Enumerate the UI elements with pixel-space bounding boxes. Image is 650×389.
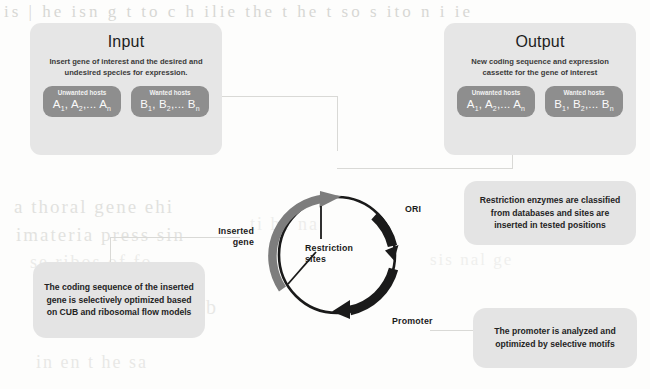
input-unwanted-hosts-label: Unwanted hosts [49, 90, 115, 97]
input-panel-subtitle: Insert gene of interest and the desired … [43, 56, 209, 78]
output-panel-subtitle: New coding sequence and expression casse… [457, 56, 623, 78]
output-panel: Output New coding sequence and expressio… [444, 23, 636, 155]
callout-promoter-optimization-lead: The promoter [494, 326, 549, 336]
output-panel-title: Output [454, 33, 626, 51]
connector-input-down [337, 96, 338, 151]
callout-coding-sequence-lead: The coding sequence [44, 282, 132, 292]
input-host-group: Unwanted hosts A1, A2,... An Wanted host… [40, 86, 212, 117]
input-unwanted-hosts-values: A1, A2,... An [49, 98, 115, 112]
output-wanted-hosts-values: B1, B2,... Bn [551, 98, 617, 112]
plasmid-promoter-arrowhead [332, 300, 350, 319]
plasmid-label-promoter: Promoter [392, 316, 433, 326]
input-unwanted-hosts-box: Unwanted hosts A1, A2,... An [43, 86, 121, 117]
input-panel: Input Insert gene of interest and the de… [30, 23, 222, 155]
callout-coding-sequence: The coding sequence of the inserted gene… [33, 262, 205, 338]
plasmid-ori-segment [375, 216, 393, 246]
callout-restriction-enzymes-lead: Restriction enzymes [480, 195, 564, 205]
callout-promoter-optimization-text: The promoter is analyzed and optimized b… [482, 325, 628, 351]
input-wanted-hosts-box: Wanted hosts B1, B2,... Bn [131, 86, 209, 117]
callout-promoter-optimization: The promoter is analyzed and optimized b… [473, 308, 637, 368]
input-wanted-hosts-values: B1, B2,... Bn [137, 98, 203, 112]
output-unwanted-hosts-values: A1, A2,... An [463, 98, 529, 112]
output-host-group: Unwanted hosts A1, A2,... An Wanted host… [454, 86, 626, 117]
output-unwanted-hosts-box: Unwanted hosts A1, A2,... An [457, 86, 535, 117]
callout-coding-sequence-text: The coding sequence of the inserted gene… [42, 281, 196, 320]
bleed-through-text: sis nal ge [430, 250, 513, 270]
plasmid-promoter-segment [350, 269, 394, 311]
bleed-through-text: a thoral gene ehi [14, 196, 174, 218]
input-panel-title: Input [40, 33, 212, 51]
bleed-through-text: is | he isn g t to c h ilie the t he t s… [4, 2, 473, 22]
plasmid-ori-arrowhead [385, 245, 399, 261]
callout-restriction-enzymes: Restriction enzymes are classified from … [464, 181, 636, 245]
bleed-through-text: imateria press sin [16, 224, 185, 246]
callout-restriction-enzymes-text: Restriction enzymes are classified from … [473, 194, 627, 233]
bleed-through-text: in en t he sa [36, 352, 148, 373]
plasmid-label-ori: ORI [405, 204, 421, 214]
output-unwanted-hosts-label: Unwanted hosts [463, 90, 529, 97]
connector-top-bracket [213, 96, 338, 97]
output-wanted-hosts-box: Wanted hosts B1, B2,... Bn [545, 86, 623, 117]
plasmid-inserted-gene-arrowhead [320, 191, 342, 208]
plasmid-label-inserted-gene: Inserted gene [206, 226, 254, 248]
input-wanted-hosts-label: Wanted hosts [137, 90, 203, 97]
plasmid-label-restriction-sites: Restriction sites [305, 243, 361, 265]
output-wanted-hosts-label: Wanted hosts [551, 90, 617, 97]
